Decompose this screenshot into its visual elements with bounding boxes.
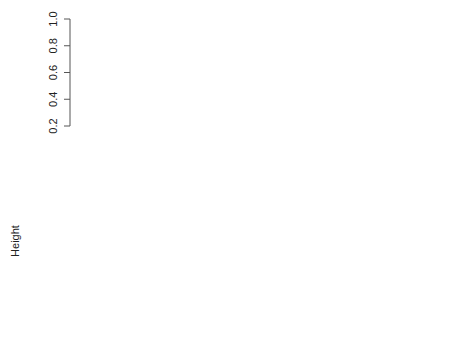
y-axis-label: Height: [9, 225, 21, 257]
y-tick-label: 0.4: [47, 92, 59, 107]
y-tick-label: 1.0: [47, 11, 59, 26]
y-axis: 0.20.40.60.81.0: [47, 11, 70, 133]
y-tick-label: 0.2: [47, 118, 59, 133]
y-tick-label: 0.8: [47, 38, 59, 53]
dendrogram-chart: 0.20.40.60.81.0 Height: [0, 0, 451, 346]
y-tick-label: 0.6: [47, 65, 59, 80]
